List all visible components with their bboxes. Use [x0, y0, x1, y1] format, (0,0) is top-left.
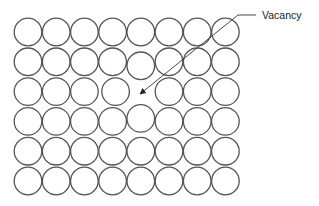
atom-circle — [183, 108, 211, 136]
atom-circle — [14, 78, 42, 106]
atom-circle — [99, 137, 127, 165]
atom-circle — [212, 108, 240, 136]
atom-circle — [155, 167, 183, 195]
atom-circle — [212, 48, 240, 76]
atom-circle — [212, 78, 240, 106]
atom-circle — [42, 48, 70, 76]
atom-circle — [183, 167, 211, 195]
atom-circle — [42, 137, 70, 165]
atom-circle — [127, 105, 155, 133]
atom-circle — [14, 18, 42, 46]
atom-circle — [71, 137, 99, 165]
atom-circle — [42, 108, 70, 136]
atom-circle — [42, 78, 70, 106]
atom-circle — [155, 78, 183, 106]
atom-lattice — [14, 18, 239, 195]
atom-circle — [71, 48, 99, 76]
atom-circle — [212, 137, 240, 165]
atom-circle — [127, 137, 155, 165]
atom-circle — [183, 48, 211, 76]
atom-circle — [71, 167, 99, 195]
atom-circle — [42, 18, 70, 46]
atom-circle — [14, 48, 42, 76]
atom-circle — [183, 78, 211, 106]
atom-circle — [155, 48, 183, 76]
atom-circle — [14, 108, 42, 136]
atom-circle — [102, 78, 130, 106]
atom-circle — [183, 137, 211, 165]
atom-circle — [14, 167, 42, 195]
atom-circle — [127, 52, 155, 80]
atom-circle — [42, 167, 70, 195]
atom-circle — [127, 18, 155, 46]
atom-circle — [155, 108, 183, 136]
atom-circle — [99, 18, 127, 46]
atom-circle — [71, 108, 99, 136]
atom-circle — [14, 137, 42, 165]
atom-circle — [155, 137, 183, 165]
atom-circle — [212, 167, 240, 195]
atom-circle — [99, 48, 127, 76]
atom-circle — [71, 78, 99, 106]
atom-circle — [212, 18, 240, 46]
vacancy-annotation: Vacancy — [140, 9, 302, 94]
atom-circle — [183, 18, 211, 46]
vacancy-lattice-diagram: Vacancy — [0, 0, 319, 206]
vacancy-label: Vacancy — [262, 9, 302, 21]
atom-circle — [99, 108, 127, 136]
atom-circle — [99, 167, 127, 195]
atom-circle — [71, 18, 99, 46]
atom-circle — [155, 18, 183, 46]
atom-circle — [127, 167, 155, 195]
